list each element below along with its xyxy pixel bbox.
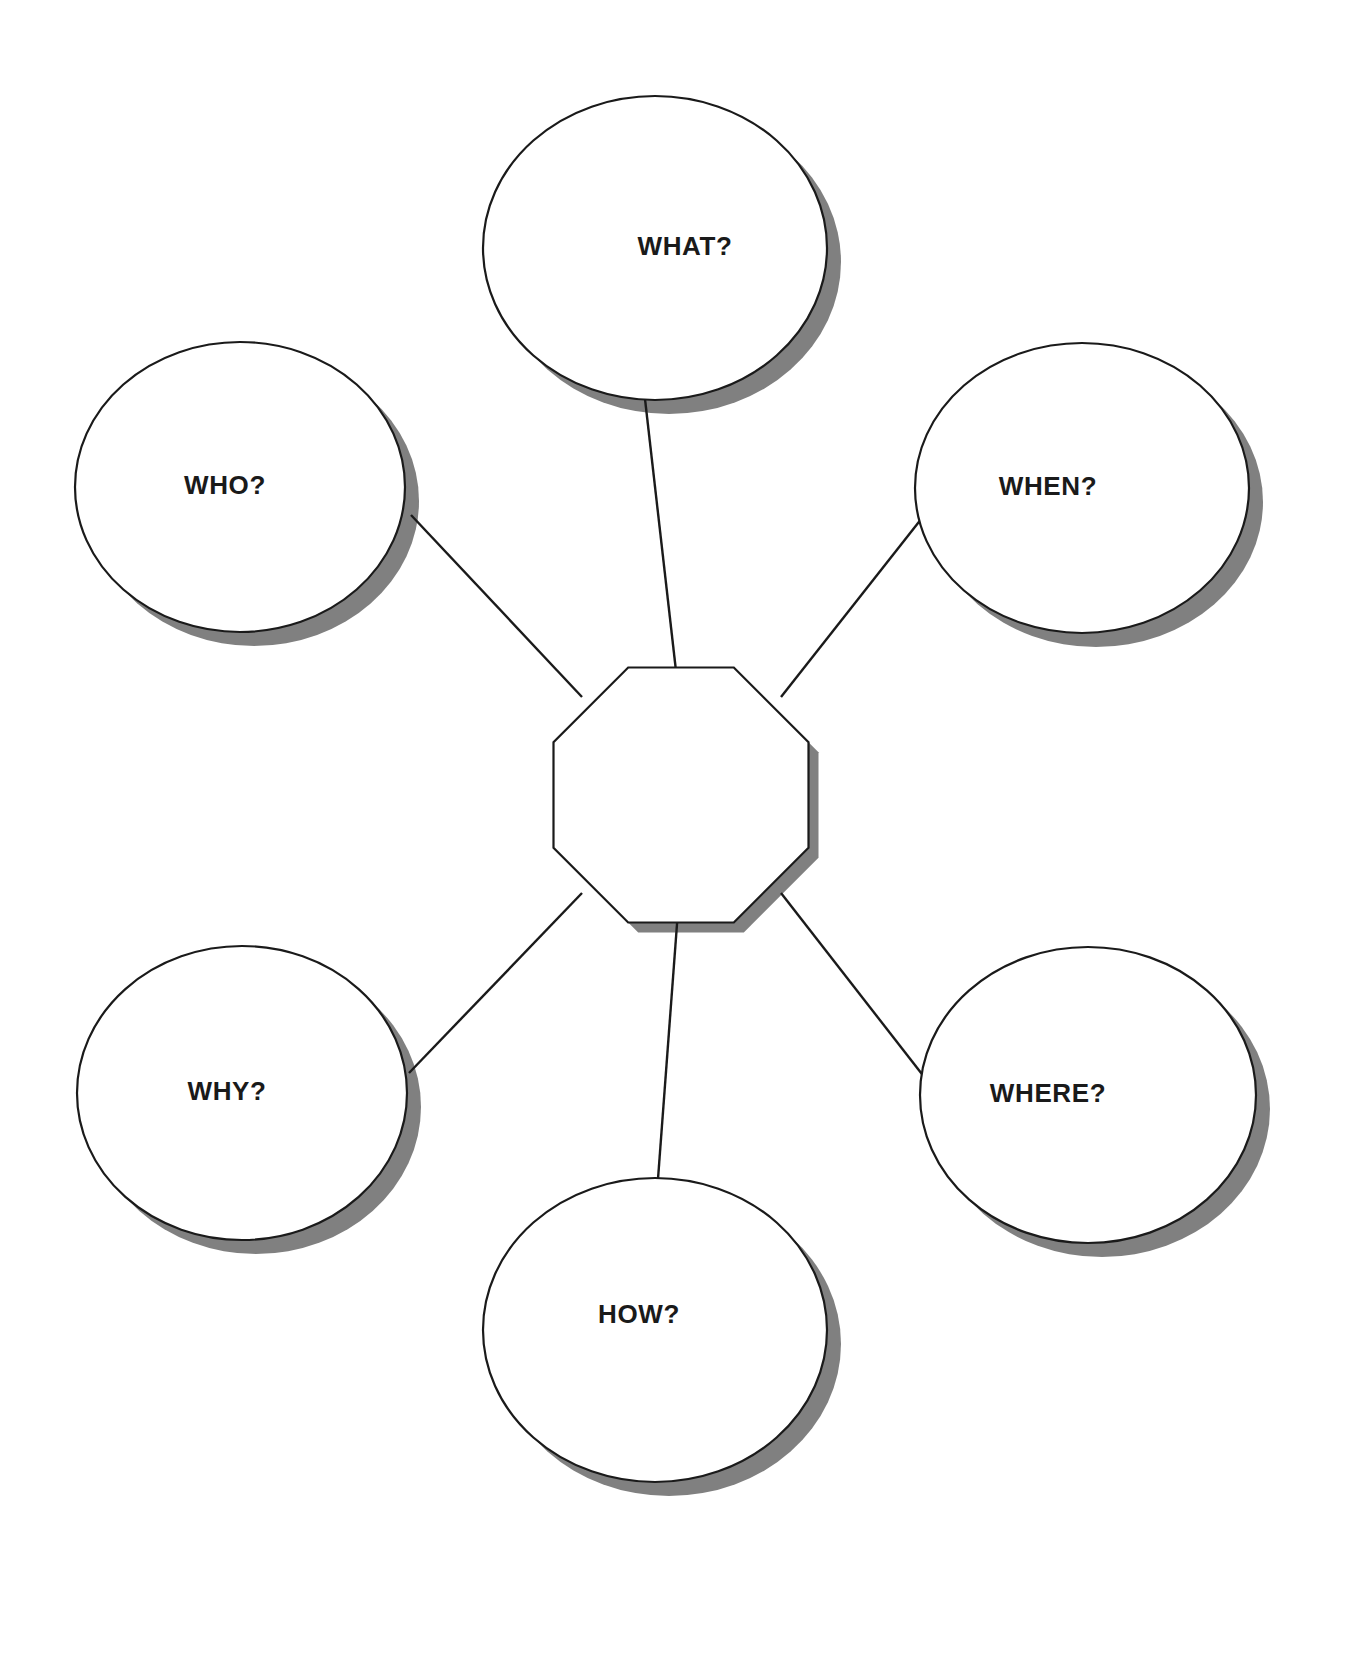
node-label-where: WHERE? xyxy=(990,1078,1106,1108)
center-octagon-shape xyxy=(554,668,809,923)
connector-center-to-where xyxy=(781,893,925,1078)
node-layer: WHAT?WHO?WHEN?WHY?WHERE?HOW? xyxy=(75,96,1256,1482)
graphic-organizer-diagram: WHAT?WHO?WHEN?WHY?WHERE?HOW? xyxy=(0,0,1366,1674)
node-label-what: WHAT? xyxy=(638,231,733,261)
node-what[interactable]: WHAT? xyxy=(483,96,827,400)
node-label-how: HOW? xyxy=(598,1299,680,1329)
connector-center-to-what xyxy=(645,399,680,706)
node-why[interactable]: WHY? xyxy=(77,946,407,1240)
node-where[interactable]: WHERE? xyxy=(920,947,1256,1243)
connector-center-to-why xyxy=(409,893,582,1073)
node-label-who: WHO? xyxy=(184,470,266,500)
connector-center-to-when xyxy=(781,518,922,697)
node-label-why: WHY? xyxy=(188,1076,267,1106)
connector-center-to-who xyxy=(411,515,582,697)
node-who[interactable]: WHO? xyxy=(75,342,405,632)
node-shape-how xyxy=(483,1178,827,1482)
node-label-when: WHEN? xyxy=(999,471,1097,501)
center-octagon[interactable] xyxy=(554,668,809,923)
diagram-canvas: WHAT?WHO?WHEN?WHY?WHERE?HOW? xyxy=(0,0,1366,1674)
node-how[interactable]: HOW? xyxy=(483,1178,827,1482)
node-when[interactable]: WHEN? xyxy=(915,343,1249,633)
